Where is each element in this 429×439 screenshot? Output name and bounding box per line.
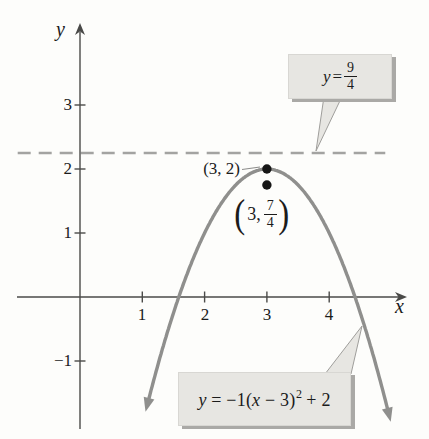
hline-fraction-denominator: 4 <box>347 77 354 92</box>
parabola-eq-mid2: − 3) <box>260 390 295 410</box>
x-tick-label-2: 2 <box>193 305 217 325</box>
open-paren: ( <box>234 196 245 232</box>
parabola-arrowhead-right-icon <box>382 407 393 422</box>
y-tick-label-neg1: −1 <box>42 351 72 371</box>
parabola-arrowhead-left-icon <box>144 397 155 412</box>
plotted-point-2 <box>262 180 271 189</box>
x-tick-label-3: 3 <box>255 305 279 325</box>
point2-x-value: 3, <box>247 204 261 225</box>
second-point-label: ( 3, 7 4 ) <box>233 192 290 236</box>
vertex-point-label: (3, 2) <box>180 159 240 179</box>
point2-fraction-denominator: 4 <box>267 215 274 230</box>
hline-callout-pointer <box>316 97 342 152</box>
y-axis-label: y <box>56 18 65 41</box>
parabola-eq-mid1: = −1( <box>207 390 253 410</box>
point2-fraction: 7 4 <box>264 199 277 230</box>
hline-eq-equals: = <box>332 67 342 87</box>
hline-eq-fraction: 9 4 <box>344 61 357 92</box>
parabola-callout-pointer <box>325 326 362 374</box>
parabola-eq-tail: + 2 <box>302 390 331 410</box>
point2-fraction-numerator: 7 <box>264 199 277 215</box>
equation-callout-parabola: y = −1(x − 3)2 + 2 <box>178 372 351 426</box>
parabola-eq-y: y <box>198 390 206 410</box>
hline-eq-lhs: y <box>323 67 331 87</box>
plotted-point-1 <box>262 164 271 173</box>
equation-callout-hline: y = 9 4 <box>288 54 392 99</box>
figure-canvas: y x 3 2 1 −1 1 2 3 4 (3, 2) ( 3, 7 4 ) y… <box>0 0 429 439</box>
hline-equation: y = 9 4 <box>323 61 357 92</box>
x-tick-label-4: 4 <box>317 305 341 325</box>
y-tick-label-2: 2 <box>42 159 72 179</box>
hline-fraction-numerator: 9 <box>344 61 357 77</box>
x-tick-label-1: 1 <box>130 305 154 325</box>
close-paren: ) <box>278 196 289 232</box>
x-axis-label: x <box>395 295 404 318</box>
y-tick-label-1: 1 <box>42 223 72 243</box>
parabola-eq-exponent: 2 <box>296 387 302 401</box>
y-tick-label-3: 3 <box>42 95 72 115</box>
parabola-equation: y = −1(x − 3)2 + 2 <box>198 388 330 411</box>
